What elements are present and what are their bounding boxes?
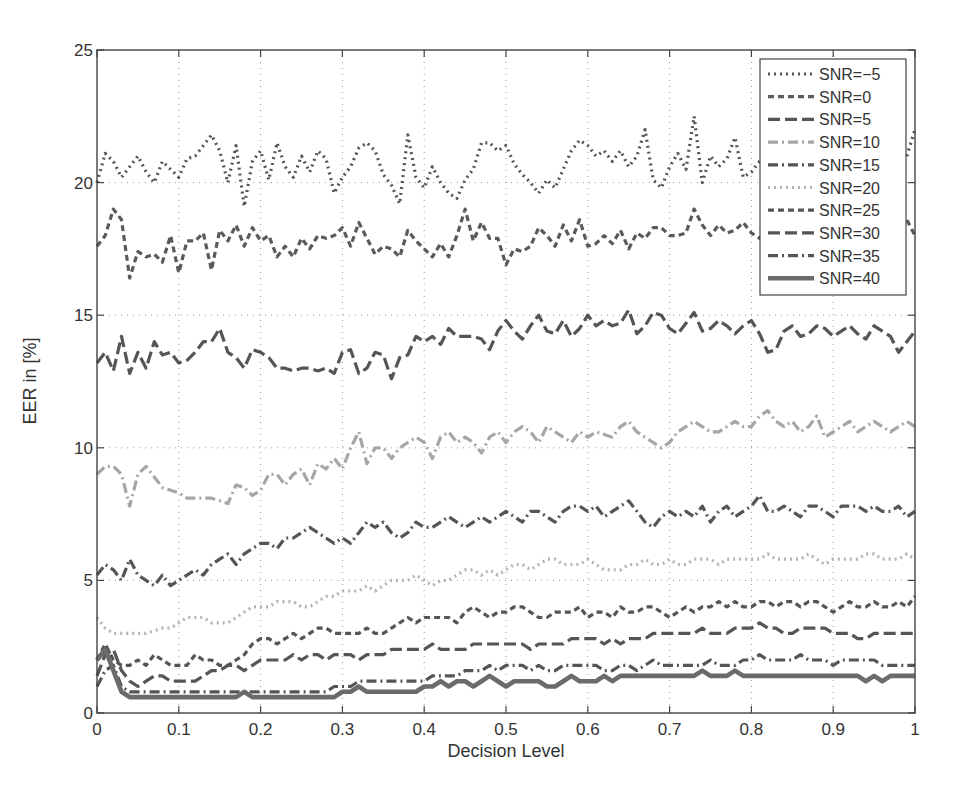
legend-label: SNR=5	[819, 111, 871, 128]
x-tick-label: 0.2	[249, 720, 273, 739]
legend-label: SNR=−5	[819, 66, 880, 83]
x-tick-label: 0	[92, 720, 101, 739]
x-tick-label: 0.5	[494, 720, 518, 739]
x-tick-label: 1	[910, 720, 919, 739]
legend-label: SNR=25	[819, 202, 880, 219]
y-tick-label: 20	[74, 174, 93, 193]
legend-label: SNR=10	[819, 134, 880, 151]
y-tick-label: 0	[84, 704, 93, 723]
legend-label: SNR=20	[819, 180, 880, 197]
x-tick-label: 0.4	[412, 720, 436, 739]
y-tick-label: 15	[74, 306, 93, 325]
legend-label: SNR=15	[819, 157, 880, 174]
x-tick-label: 0.7	[658, 720, 682, 739]
x-tick-label: 0.3	[331, 720, 355, 739]
legend-label: SNR=0	[819, 89, 871, 106]
x-tick-label: 0.6	[576, 720, 600, 739]
x-axis-label: Decision Level	[447, 741, 564, 761]
x-tick-label: 0.9	[821, 720, 845, 739]
y-tick-label: 10	[74, 439, 93, 458]
legend-label: SNR=35	[819, 248, 880, 265]
legend-label: SNR=40	[819, 270, 880, 287]
legend: SNR=−5SNR=0SNR=5SNR=10SNR=15SNR=20SNR=25…	[760, 59, 906, 295]
x-tick-label: 0.8	[740, 720, 764, 739]
legend-label: SNR=30	[819, 225, 880, 242]
x-tick-label: 0.1	[167, 720, 191, 739]
y-tick-label: 5	[84, 571, 93, 590]
y-tick-label: 25	[74, 41, 93, 60]
line-chart: 00.10.20.30.40.50.60.70.80.91 0510152025…	[0, 0, 958, 794]
y-axis-label: EER in [%]	[20, 337, 40, 424]
